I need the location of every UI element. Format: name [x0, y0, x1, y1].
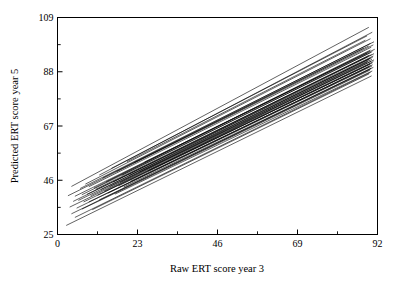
- y-tick-label: 88: [44, 66, 54, 77]
- y-tick-label: 25: [44, 229, 54, 240]
- chart-figure: 023466992 25466788109 Raw ERT score year…: [0, 0, 395, 285]
- x-axis-title: Raw ERT score year 3: [170, 263, 264, 274]
- x-tick-label: 69: [293, 238, 303, 249]
- x-tick-label: 46: [213, 238, 223, 249]
- x-tick-label: 23: [133, 238, 143, 249]
- y-axis-title: Predicted ERT score year 5: [9, 69, 20, 184]
- y-tick-label: 67: [44, 121, 54, 132]
- y-tick-label: 109: [39, 12, 54, 23]
- x-tick-label: 0: [55, 238, 60, 249]
- x-tick-label: 92: [373, 238, 383, 249]
- y-tick-label: 46: [44, 175, 54, 186]
- spaghetti-plot: 023466992 25466788109 Raw ERT score year…: [0, 0, 395, 285]
